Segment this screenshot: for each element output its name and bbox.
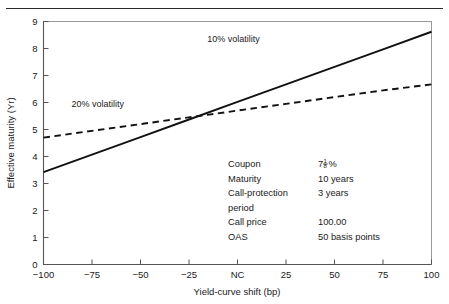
x-tick-label: 25 xyxy=(281,269,292,280)
y-tick-label: 8 xyxy=(32,43,37,54)
series-label-10-volatility: 10% volatility xyxy=(207,34,260,44)
x-tick-label: 50 xyxy=(329,269,340,280)
chart-svg: 0123456789 −100−75−50−25NC255075100 10% … xyxy=(0,0,449,304)
param-value-1: 10 years xyxy=(318,174,354,184)
param-label-1: Maturity xyxy=(228,174,261,184)
y-tick-label: 7 xyxy=(32,70,37,81)
x-tick-label: −25 xyxy=(181,269,197,280)
param-label-3: period xyxy=(228,203,254,213)
param-value-5: 50 basis points xyxy=(318,232,380,242)
y-tick-label: 9 xyxy=(32,16,37,27)
param-label-2: Call-protection xyxy=(228,188,288,198)
param-value-suffix-0: % xyxy=(329,159,337,169)
x-tick-label: 75 xyxy=(378,269,389,280)
x-axis-ticks: −100−75−50−25NC255075100 xyxy=(33,260,440,280)
series-label-20-volatility: 20% volatility xyxy=(72,99,125,109)
y-axis-ticks: 0123456789 xyxy=(32,16,48,270)
param-value-0: 7 xyxy=(318,159,323,169)
x-tick-label: −75 xyxy=(84,269,100,280)
figure-container: 0123456789 −100−75−50−25NC255075100 10% … xyxy=(0,0,449,304)
y-tick-label: 1 xyxy=(32,232,37,243)
y-axis-title: Effective maturity (Yr) xyxy=(5,97,16,188)
plot-frame xyxy=(44,21,433,265)
series-line-20-volatility xyxy=(44,84,432,137)
param-label-5: OAS xyxy=(228,232,248,242)
param-label-4: Call price xyxy=(228,217,267,227)
x-tick-label: −50 xyxy=(132,269,148,280)
y-tick-label: 3 xyxy=(32,178,37,189)
series-inline-labels: 10% volatility20% volatility xyxy=(72,34,261,109)
x-tick-label: −100 xyxy=(33,269,54,280)
annotation-parameter-box: Coupon718%Maturity10 yearsCall-protectio… xyxy=(228,158,380,242)
param-label-0: Coupon xyxy=(228,159,261,169)
param-value-4: 100.00 xyxy=(318,217,346,227)
x-tick-label: NC xyxy=(231,269,245,280)
x-axis-title: Yield-curve shift (bp) xyxy=(194,286,281,297)
y-tick-label: 2 xyxy=(32,205,37,216)
y-tick-label: 4 xyxy=(32,151,37,162)
y-tick-label: 5 xyxy=(32,124,37,135)
y-tick-label: 6 xyxy=(32,97,37,108)
param-value-2: 3 years xyxy=(318,188,349,198)
x-tick-label: 100 xyxy=(424,269,440,280)
